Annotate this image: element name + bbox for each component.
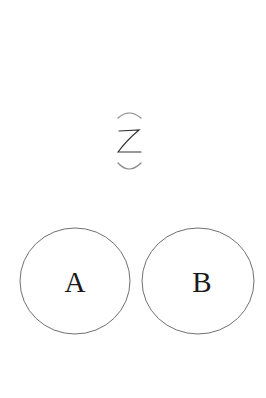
top-arc-icon (118, 113, 141, 118)
circle-a-label: A (65, 268, 86, 297)
diagram-canvas: A B (0, 0, 266, 398)
z-symbol (118, 113, 141, 169)
circle-b-label: B (192, 268, 211, 297)
z-glyph-icon (118, 130, 141, 152)
diagram-svg (0, 0, 266, 398)
bottom-arc-icon (118, 163, 141, 169)
